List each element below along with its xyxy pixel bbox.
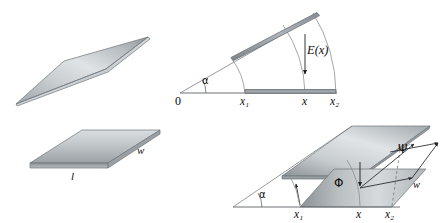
label-psi-bottom-right: Ψ — [398, 143, 407, 155]
label-phi-bottom-right: Φ — [334, 177, 343, 189]
label-x-top-right: x — [302, 96, 307, 108]
label-origin-top-right: 0 — [175, 95, 181, 107]
diagram-svg — [0, 0, 447, 223]
figure-canvas: w l 0 α E(x) x1 x x2 α Φ Ψ w x1 x x2 — [0, 0, 447, 223]
label-plate-width-left: w — [137, 145, 144, 156]
perspective-arc-x1 — [290, 176, 300, 206]
label-x1-top-right: x1 — [240, 96, 249, 109]
sector-arc-inner — [231, 58, 245, 93]
label-x1-bottom-right: x1 — [294, 209, 303, 222]
label-field-E-of-x: E(x) — [307, 44, 329, 57]
perspective-upper-plate — [282, 126, 430, 176]
label-plate-width-bottom-right: w — [413, 180, 420, 191]
flat-plate-front-edge — [30, 163, 108, 168]
label-x2-top-right: x2 — [330, 96, 339, 109]
sector-bar-horizontal — [245, 90, 336, 94]
twisted-plate-upper-surface — [16, 37, 148, 104]
psi-vector-outer[interactable] — [412, 143, 438, 178]
label-alpha-top-right: α — [202, 76, 209, 86]
sector-arc-middle — [283, 25, 305, 93]
label-alpha-bottom-right: α — [259, 190, 266, 200]
label-x2-bottom-right: x2 — [385, 209, 394, 222]
label-plate-length-left: l — [71, 171, 74, 182]
label-x-bottom-right: x — [356, 209, 361, 221]
